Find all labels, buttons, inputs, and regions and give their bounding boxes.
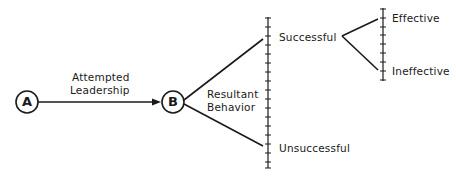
resultant-label-line1: Resultant: [207, 88, 258, 101]
arrowhead-icon: [152, 99, 161, 106]
outcome-unsuccessful: Unsuccessful: [279, 142, 350, 155]
branch-effective: [342, 19, 378, 36]
outcome-ineffective: Ineffective: [392, 65, 450, 78]
node-a-label: A: [16, 91, 38, 113]
node-b-label: B: [162, 91, 184, 113]
outcome-successful: Successful: [279, 31, 337, 44]
outcome-effective: Effective: [392, 12, 440, 25]
edge-label-line2: Leadership: [70, 84, 130, 97]
resultant-label-line2: Behavior: [207, 101, 255, 114]
edge-label-line1: Attempted: [72, 71, 130, 84]
branch-ineffective: [342, 36, 378, 70]
